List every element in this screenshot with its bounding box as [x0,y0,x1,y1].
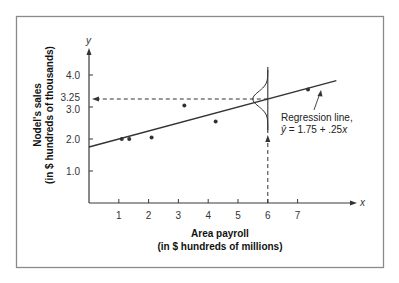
data-point [120,137,124,141]
y-tick-label: 1.0 [66,166,80,177]
left-arrow-icon [92,97,99,102]
x-axis-title-units: (in $ hundreds of millions) [158,241,283,252]
y-axis-variable: y [85,35,92,46]
prediction-guides [92,67,270,203]
data-point [127,137,131,141]
y-tick-label: 2.0 [66,134,80,145]
y-axis-arrow-icon [87,48,92,55]
x-axis-title-main: Area payroll [191,228,249,239]
data-point [182,103,186,107]
y-axis-title: Nodel's sales (in $ hundreds of thousand… [32,46,55,184]
regression-annotation: Regression line, ŷ = 1.75 + .25x [280,90,353,135]
y-tick-label: 3.0 [66,104,80,115]
x-tick-label: 6 [265,210,271,221]
data-point [150,135,154,139]
y-tick-label: 4.0 [66,70,80,81]
data-point [214,119,218,123]
x-axis-arrow-icon [350,201,357,206]
x-tick-label: 2 [146,210,152,221]
equation-body: = 1.75 + .25 [286,124,343,135]
x-axis-variable: x [359,197,366,208]
x-tick-label: 5 [235,210,241,221]
x-tick-label: 7 [295,210,301,221]
x-tick-label: 3 [176,210,182,221]
y-axis-title-main: Nodel's sales [32,83,43,147]
x-axis-title: Area payroll (in $ hundreds of millions) [158,228,283,252]
x-tick-label: 1 [116,210,122,221]
equation-variable: x [341,124,348,135]
data-point [306,87,310,91]
y-axis-title-units: (in $ hundreds of thousands) [44,46,55,184]
up-arrow-icon [265,135,270,142]
chart-svg: Nodel's sales (in $ hundreds of thousand… [0,0,399,283]
y-tick-label: 3.25 [61,92,81,103]
x-tick-label: 4 [205,210,211,221]
regression-label-line1: Regression line, [281,112,353,123]
annotation-arrowhead-icon [318,90,323,97]
regression-equation: ŷ = 1.75 + .25x [280,124,348,135]
regression-chart: Nodel's sales (in $ hundreds of thousand… [0,0,399,283]
